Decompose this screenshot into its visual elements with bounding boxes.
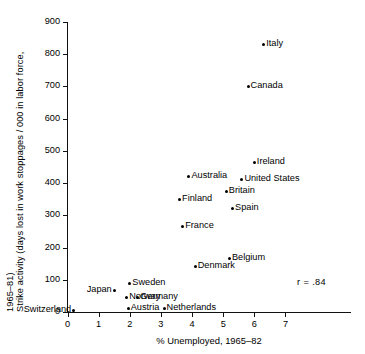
y-tick-label: 100 xyxy=(30,274,60,284)
y-axis-label-line1: Strike activity (days lost in work stopp… xyxy=(15,52,25,312)
data-point-label: Ireland xyxy=(257,156,285,166)
x-tick-mark xyxy=(161,313,162,317)
y-tick-label: 300 xyxy=(30,209,60,219)
data-point-label: Austria xyxy=(131,302,160,312)
y-axis-label-line2: 1965–81) xyxy=(5,272,15,312)
scatter-plot: Strike activity (days lost in work stopp… xyxy=(0,0,365,354)
data-point-label: Canada xyxy=(251,80,283,90)
data-point xyxy=(194,265,197,268)
x-tick-mark xyxy=(223,313,224,317)
x-tick-mark xyxy=(254,313,255,317)
x-tick-label: 1 xyxy=(92,319,106,329)
data-point-label: Australia xyxy=(191,170,227,180)
data-point-label: United States xyxy=(244,173,299,183)
y-axis-label: Strike activity (days lost in work stopp… xyxy=(0,0,28,320)
x-tick-mark xyxy=(192,313,193,317)
data-point xyxy=(187,175,190,178)
y-tick-mark xyxy=(63,22,67,23)
data-point-label: France xyxy=(185,220,214,230)
x-tick-mark xyxy=(130,313,131,317)
data-point xyxy=(262,43,265,46)
x-axis-label: % Unemployed, 1965–82 xyxy=(67,335,351,346)
data-point-label: Japan xyxy=(87,284,112,294)
y-tick-mark xyxy=(63,248,67,249)
data-point xyxy=(225,190,228,193)
data-point-label: Belgium xyxy=(232,252,265,262)
data-point-label: Finland xyxy=(182,193,212,203)
x-tick-label: 7 xyxy=(278,319,292,329)
data-point xyxy=(125,296,128,299)
y-tick-mark xyxy=(63,280,67,281)
data-point-label: Switzerland xyxy=(24,304,72,314)
data-point xyxy=(163,307,166,310)
y-axis-line xyxy=(67,22,68,313)
x-tick-label: 4 xyxy=(185,319,199,329)
y-tick-mark xyxy=(63,54,67,55)
data-point-label: Sweden xyxy=(132,277,165,287)
data-point xyxy=(113,289,116,292)
x-tick-label: 6 xyxy=(247,319,261,329)
x-tick-label: 5 xyxy=(216,319,230,329)
x-tick-label: 0 xyxy=(61,319,75,329)
data-point-label: Netherlands xyxy=(167,302,217,312)
data-point xyxy=(181,225,184,228)
y-tick-label: 400 xyxy=(30,177,60,187)
data-point-label: Spain xyxy=(235,202,259,212)
y-tick-mark xyxy=(63,151,67,152)
y-tick-label: 800 xyxy=(30,48,60,58)
data-point-label: Denmark xyxy=(198,260,235,270)
data-point xyxy=(127,307,130,310)
y-tick-label: 600 xyxy=(30,113,60,123)
x-tick-mark xyxy=(99,313,100,317)
data-point xyxy=(178,198,181,201)
data-point-label: Italy xyxy=(266,38,283,48)
data-point xyxy=(128,282,131,285)
data-point xyxy=(247,85,250,88)
data-point xyxy=(240,178,243,181)
y-tick-label: 500 xyxy=(30,145,60,155)
correlation-annotation: r = .84 xyxy=(297,277,326,287)
y-tick-mark xyxy=(63,119,67,120)
data-point xyxy=(231,207,234,210)
y-tick-mark xyxy=(63,86,67,87)
data-point-label: Britain xyxy=(229,185,255,195)
y-tick-label: 900 xyxy=(30,16,60,26)
y-tick-mark xyxy=(63,183,67,184)
y-tick-mark xyxy=(63,215,67,216)
data-point xyxy=(253,161,256,164)
x-tick-mark xyxy=(285,313,286,317)
y-tick-label: 200 xyxy=(30,242,60,252)
y-tick-label: 700 xyxy=(30,80,60,90)
x-tick-label: 3 xyxy=(154,319,168,329)
data-point-label: Germany xyxy=(140,291,178,301)
x-tick-label: 2 xyxy=(123,319,137,329)
